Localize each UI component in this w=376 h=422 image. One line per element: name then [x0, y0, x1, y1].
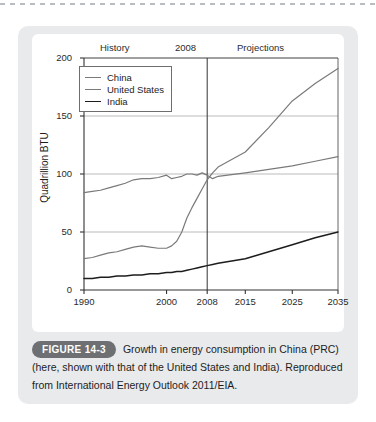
legend-item-label: United States — [107, 84, 164, 95]
legend-item: China — [85, 71, 164, 83]
figure-number-badge: FIGURE 14-3 — [32, 341, 116, 358]
chart-legend: ChinaUnited StatesIndia — [79, 66, 172, 112]
legend-item: United States — [85, 83, 164, 95]
legend-item-label: China — [107, 72, 132, 83]
legend-item-label: India — [107, 96, 128, 107]
figure-card: History 2008 Projections Quadrillion BTU… — [18, 26, 358, 404]
legend-item: India — [85, 95, 164, 107]
legend-swatch-icon — [85, 77, 101, 78]
legend-swatch-icon — [85, 101, 101, 102]
figure-caption-area: FIGURE 14-3Growth in energy consumption … — [32, 340, 348, 394]
legend-swatch-icon — [85, 89, 101, 90]
chart-plot-panel: History 2008 Projections Quadrillion BTU… — [32, 34, 344, 332]
series-line-india — [84, 232, 338, 278]
page-dashed-rule — [0, 3, 376, 5]
